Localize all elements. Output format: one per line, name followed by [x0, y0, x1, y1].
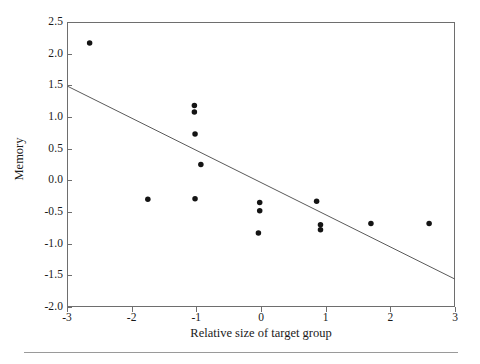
data-point: [314, 198, 320, 204]
y-tick-mark: [67, 180, 72, 181]
data-point: [257, 200, 263, 206]
y-tick-label: 1.5: [29, 79, 63, 91]
y-axis-title: Memory: [12, 114, 26, 204]
y-tick-label: 2.5: [29, 16, 63, 28]
y-tick-mark: [67, 275, 72, 276]
x-tick-label: -3: [47, 311, 87, 323]
x-tick-mark: [326, 307, 327, 312]
y-tick-label: -1.0: [29, 238, 63, 250]
x-tick-mark: [67, 307, 68, 312]
data-point: [318, 227, 324, 233]
footer-divider: [24, 352, 458, 353]
trend-line: [67, 86, 455, 279]
y-tick-mark: [67, 149, 72, 150]
data-point: [426, 221, 432, 227]
x-tick-label: -1: [176, 311, 216, 323]
y-tick-label: 2.0: [29, 48, 63, 60]
data-point: [198, 162, 204, 168]
y-tick-mark: [67, 85, 72, 86]
y-tick-label: 1.0: [29, 111, 63, 123]
y-tick-label: 0.0: [29, 174, 63, 186]
y-tick-mark: [67, 244, 72, 245]
data-point: [87, 40, 93, 46]
y-tick-mark: [67, 212, 72, 213]
data-point: [256, 230, 262, 236]
y-tick-label: 0.5: [29, 143, 63, 155]
x-tick-mark: [196, 307, 197, 312]
x-tick-label: -2: [112, 311, 152, 323]
x-tick-mark: [261, 307, 262, 312]
data-point: [192, 131, 198, 137]
x-tick-label: 3: [435, 311, 475, 323]
data-point: [192, 103, 198, 109]
data-points: [87, 40, 432, 236]
x-tick-label: 2: [370, 311, 410, 323]
scatter-plot-figure: -2.0-1.5-1.0-0.50.00.51.01.52.02.5 -3-2-…: [0, 0, 480, 364]
data-point: [145, 197, 151, 203]
y-tick-label: -0.5: [29, 206, 63, 218]
x-axis-title: Relative size of target group: [67, 326, 455, 340]
trend-line-segment: [67, 86, 455, 279]
x-tick-label: 1: [306, 311, 346, 323]
plot-data-layer: [67, 22, 455, 307]
x-tick-mark: [455, 307, 456, 312]
x-tick-mark: [132, 307, 133, 312]
y-axis-ticks: -2.0-1.5-1.0-0.50.00.51.01.52.02.5: [22, 0, 63, 364]
data-point: [192, 109, 198, 115]
y-tick-mark: [67, 22, 72, 23]
data-point: [318, 222, 324, 228]
y-tick-label: -1.5: [29, 269, 63, 281]
data-point: [192, 196, 198, 202]
y-tick-mark: [67, 117, 72, 118]
x-tick-label: 0: [241, 311, 281, 323]
data-point: [257, 208, 263, 214]
x-tick-mark: [390, 307, 391, 312]
y-tick-mark: [67, 54, 72, 55]
data-point: [368, 221, 374, 227]
